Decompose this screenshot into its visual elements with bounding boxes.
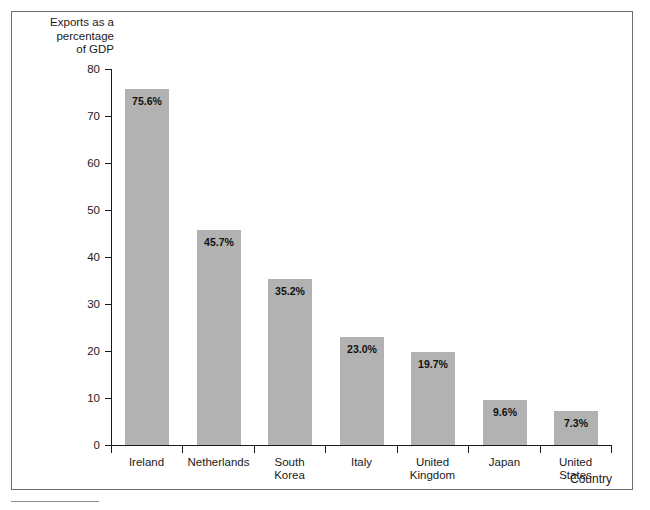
- bar-value-label: 45.7%: [197, 237, 241, 248]
- plot-area: 0 10 20 30 40 50 60 70 80 75.6% 45.7%: [12, 12, 634, 491]
- x-axis-category-label-netherlands: Netherlands: [183, 456, 254, 469]
- x-axis-category-label-italy: Italy: [326, 456, 397, 469]
- x-axis-tick: [254, 446, 255, 453]
- x-axis-tick: [397, 446, 398, 453]
- x-axis-tick: [182, 446, 183, 453]
- x-axis-line: [111, 445, 612, 446]
- x-axis-title: Country: [482, 473, 612, 485]
- bar-ireland[interactable]: [125, 89, 169, 445]
- bar-value-label: 75.6%: [125, 96, 169, 107]
- x-axis-tick: [468, 446, 469, 453]
- y-axis-tick-label: 40: [52, 252, 100, 264]
- x-axis-category-label-united-kingdom: United Kingdom: [397, 456, 468, 482]
- bar-value-label: 35.2%: [268, 286, 312, 297]
- footer-rule: [11, 501, 99, 502]
- y-axis-tick-label: 10: [52, 393, 100, 405]
- x-axis-tick: [111, 446, 112, 453]
- x-axis-tick: [325, 446, 326, 453]
- bar-south-korea[interactable]: [268, 279, 312, 445]
- y-axis-tick-label: 50: [52, 205, 100, 217]
- x-axis-category-label-japan: Japan: [469, 456, 540, 469]
- bar-value-label: 7.3%: [554, 418, 598, 429]
- bar-value-label: 19.7%: [411, 359, 455, 370]
- x-axis-tick: [540, 446, 541, 453]
- y-axis-tick-label: 0: [52, 440, 100, 452]
- y-axis-tick-label: 30: [52, 299, 100, 311]
- y-axis-tick-label: 60: [52, 158, 100, 170]
- x-axis-category-label-ireland: Ireland: [111, 456, 182, 469]
- y-axis-tick-label: 70: [52, 111, 100, 123]
- y-axis-tick: [105, 210, 112, 211]
- y-axis-tick: [105, 116, 112, 117]
- chart-frame: Exports as a percentage of GDP 0 10 20 3…: [11, 11, 633, 490]
- bar-value-label: 23.0%: [340, 344, 384, 355]
- y-axis-tick: [105, 163, 112, 164]
- y-axis-tick-label: 80: [52, 64, 100, 76]
- bar-value-label: 9.6%: [483, 407, 527, 418]
- y-axis-tick: [105, 398, 112, 399]
- x-axis-tick: [611, 446, 612, 453]
- y-axis-tick-label: 20: [52, 346, 100, 358]
- x-axis-category-label-south-korea: South Korea: [254, 456, 325, 482]
- y-axis-tick: [105, 304, 112, 305]
- y-axis-tick: [105, 69, 112, 70]
- y-axis-tick: [105, 351, 112, 352]
- y-axis-tick: [105, 257, 112, 258]
- bar-netherlands[interactable]: [197, 230, 241, 445]
